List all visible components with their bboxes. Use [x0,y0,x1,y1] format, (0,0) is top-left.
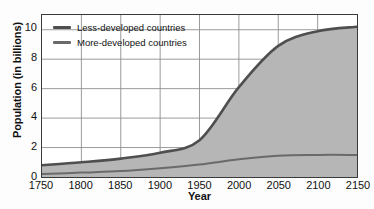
legend-label-more-developed: More-developed countries [77,37,187,48]
population-growth-chart: Population (in billions) 1086420 1750180… [0,0,374,209]
legend-item-less-developed: Less-developed countries [53,21,187,34]
x-axis-title: Year [41,190,358,202]
chart-legend: Less-developed countries More-developed … [53,21,187,51]
legend-swatch-less-developed [53,26,71,29]
y-axis-title: Population (in billions) [11,5,23,155]
legend-label-less-developed: Less-developed countries [77,22,185,33]
legend-swatch-more-developed [53,41,71,44]
legend-item-more-developed: More-developed countries [53,36,187,49]
